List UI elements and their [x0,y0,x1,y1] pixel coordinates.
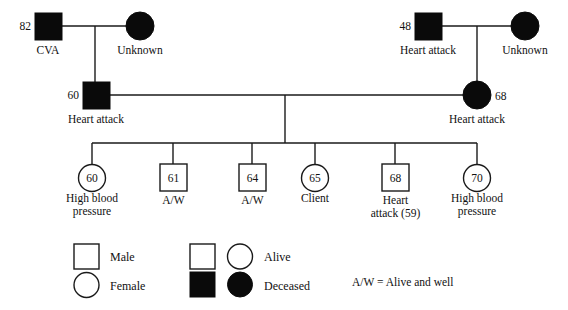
person-label-p1: Heart attack [68,113,124,125]
person-age-gp3: 48 [400,20,412,32]
person-label-gp3: Heart attack [400,44,456,56]
person-label-c2-line1: A/W [162,194,185,206]
person-age-gp1: 82 [20,20,32,32]
legend-deceased-square-icon [190,272,215,297]
person-age-c4: 65 [309,172,321,184]
person-label-p2: Heart attack [449,113,505,125]
person-label-c1-line2: pressure [73,205,111,218]
person-age-c6: 70 [471,172,483,184]
legend-deceased-label: Deceased [264,279,310,293]
person-symbol-p1[interactable] [83,82,110,109]
sibship-connector [92,143,477,165]
person-label-gp2: Unknown [117,44,163,56]
person-age-c1: 60 [86,172,98,184]
person-c6: 70 High blood pressure [451,165,503,219]
person-label-c1-line1: High blood [66,192,118,205]
children-row: 60 High blood pressure 61 A/W 64 A/W 65 … [66,164,503,220]
person-symbol-gp1[interactable] [35,13,62,40]
person-age-c3: 64 [247,172,259,184]
genogram-page: 82 CVA Unknown 48 Heart attack Unknown 6… [0,0,568,310]
person-age-c2: 61 [168,172,180,184]
person-label-gp1: CVA [37,44,60,56]
legend-alive-label: Alive [264,250,291,264]
person-symbol-p2[interactable] [463,81,491,109]
person-symbol-gp2[interactable] [126,12,154,40]
person-age-p2: 68 [495,90,507,102]
person-label-c5-line1: Heart [383,194,409,206]
person-c2: 61 A/W [160,164,187,206]
legend-male-icon [74,244,99,269]
person-label-c6-line1: High blood [451,192,503,205]
legend-deceased-circle-icon [228,272,253,297]
couple-parents: 60 Heart attack 68 Heart attack [68,81,507,143]
person-c1: 60 High blood pressure [66,165,118,219]
person-age-p1: 60 [68,89,80,101]
legend-female-label: Female [110,279,145,293]
person-label-c4-line1: Client [301,192,330,204]
person-symbol-gp3[interactable] [415,13,442,40]
legend-abbreviation-note: A/W = Alive and well [352,276,453,288]
genogram-canvas: 82 CVA Unknown 48 Heart attack Unknown 6… [0,0,568,310]
person-c4: 65 Client [301,165,330,205]
person-label-c5-line2: attack (59) [371,207,421,220]
person-label-c3-line1: A/W [241,194,264,206]
legend-alive-square-icon [190,244,215,269]
legend-male-label: Male [110,250,135,264]
legend: Male Female Alive Deceased A/W = Alive a… [74,244,453,298]
person-c5: 68 Heart attack (59) [371,164,421,220]
person-label-c6-line2: pressure [458,205,496,218]
person-label-gp4: Unknown [502,44,548,56]
person-c3: 64 A/W [239,164,266,206]
couple-right-grandparents: 48 Heart attack Unknown [400,12,548,82]
legend-female-icon [74,273,99,298]
person-age-c5: 68 [390,172,402,184]
legend-alive-circle-icon [228,244,253,269]
person-symbol-gp4[interactable] [511,12,539,40]
